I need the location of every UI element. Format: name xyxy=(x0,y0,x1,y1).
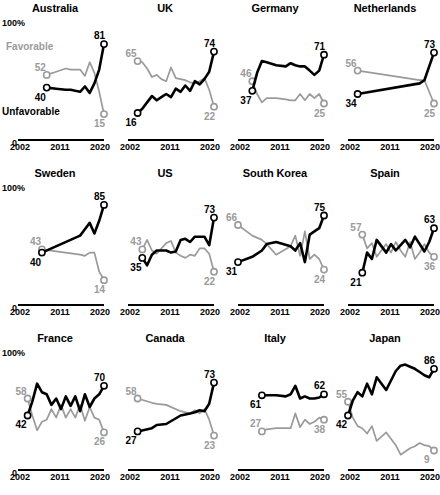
y-axis-zero-label: 0 xyxy=(12,303,17,313)
small-multiples-chart: Australia40815215200220112020100%0Favora… xyxy=(0,0,440,495)
x-tick-label: 2002 xyxy=(340,142,360,152)
x-tick-label: 2011 xyxy=(50,307,70,317)
endpoint-marker-unfavorable-end xyxy=(431,366,437,372)
endpoint-marker-unfavorable-start xyxy=(355,91,361,97)
x-axis-ticks: 200220112020 xyxy=(230,142,330,152)
panel-title: France xyxy=(0,332,110,344)
endpoint-marker-favorable-end xyxy=(101,429,107,435)
x-tick-label: 2011 xyxy=(160,307,180,317)
x-tick-label: 2020 xyxy=(200,307,220,317)
value-label-unfavorable-start: 31 xyxy=(226,266,237,277)
x-tick-label: 2020 xyxy=(200,142,220,152)
x-tick-label: 2020 xyxy=(420,142,440,152)
value-label-unfavorable-end: 63 xyxy=(424,214,435,225)
x-tick-label: 2020 xyxy=(200,472,220,482)
value-label-favorable-end: 25 xyxy=(424,108,435,119)
x-tick-label: 2002 xyxy=(120,307,140,317)
endpoint-marker-favorable-end xyxy=(211,433,217,439)
x-axis-ticks: 200220112020 xyxy=(230,307,330,317)
panel-france: France42705826200220112020100%0 xyxy=(0,330,110,495)
plot-area xyxy=(110,348,220,470)
endpoint-marker-unfavorable-start xyxy=(345,412,351,418)
value-label-unfavorable-start: 27 xyxy=(126,435,137,446)
line-unfavorable xyxy=(358,53,434,94)
panel-us: US35734322200220112020 xyxy=(110,165,220,330)
endpoint-marker-unfavorable-end xyxy=(431,50,437,56)
line-unfavorable xyxy=(47,44,104,93)
value-label-unfavorable-end: 73 xyxy=(204,369,215,380)
line-unfavorable xyxy=(138,52,214,113)
x-tick-label: 2011 xyxy=(270,142,290,152)
x-axis: 200220112020 xyxy=(330,139,440,165)
x-axis-ticks: 200220112020 xyxy=(10,472,110,482)
plot-area xyxy=(110,183,220,305)
x-axis-line xyxy=(238,304,324,306)
value-label-unfavorable-start: 42 xyxy=(336,419,347,430)
value-label-unfavorable-start: 40 xyxy=(30,257,41,268)
endpoint-marker-favorable-end xyxy=(321,267,327,273)
value-label-favorable-end: 36 xyxy=(424,261,435,272)
endpoint-marker-unfavorable-start xyxy=(259,392,265,398)
value-label-favorable-start: 66 xyxy=(226,212,237,223)
x-tick-label: 2002 xyxy=(120,142,140,152)
endpoint-marker-unfavorable-start xyxy=(249,88,255,94)
y-axis-zero-label: 0 xyxy=(12,468,17,478)
value-label-favorable-end: 15 xyxy=(94,118,105,129)
x-tick-label: 2020 xyxy=(420,307,440,317)
value-label-favorable-start: 27 xyxy=(250,418,261,429)
x-tick-label: 2002 xyxy=(340,472,360,482)
value-label-favorable-start: 58 xyxy=(126,386,137,397)
x-axis-line xyxy=(128,304,214,306)
panel-sweden: Sweden40854314200220112020100%0 xyxy=(0,165,110,330)
endpoint-marker-unfavorable-end xyxy=(101,202,107,208)
x-axis: 200220112020 xyxy=(220,139,330,165)
x-axis-ticks: 200220112020 xyxy=(340,472,440,482)
plot-area xyxy=(330,348,440,470)
endpoint-marker-unfavorable-end xyxy=(101,383,107,389)
x-tick-label: 2011 xyxy=(270,307,290,317)
legend-unfavorable: Unfavorable xyxy=(2,106,60,117)
panel-title: Netherlands xyxy=(330,2,440,14)
panel-italy: Italy61622738200220112020 xyxy=(220,330,330,495)
line-unfavorable xyxy=(348,365,434,416)
endpoint-marker-favorable-end xyxy=(321,100,327,106)
value-label-unfavorable-end: 81 xyxy=(94,30,105,41)
x-axis-line xyxy=(128,139,214,141)
x-axis-line xyxy=(18,304,104,306)
value-label-unfavorable-start: 40 xyxy=(35,92,46,103)
value-label-favorable-end: 26 xyxy=(94,436,105,447)
value-label-favorable-start: 43 xyxy=(30,236,41,247)
x-tick-label: 2002 xyxy=(230,307,250,317)
endpoint-marker-unfavorable-start xyxy=(135,110,141,116)
x-axis-ticks: 200220112020 xyxy=(120,307,220,317)
endpoint-marker-unfavorable-start xyxy=(25,412,31,418)
value-label-favorable-start: 58 xyxy=(16,386,27,397)
y-axis-max-label: 100% xyxy=(2,183,25,193)
endpoint-marker-unfavorable-end xyxy=(101,41,107,47)
x-tick-label: 2002 xyxy=(230,142,250,152)
x-axis-ticks: 200220112020 xyxy=(10,307,110,317)
x-tick-label: 2011 xyxy=(380,142,400,152)
panel-germany: Germany37714625200220112020 xyxy=(220,0,330,165)
value-label-unfavorable-end: 71 xyxy=(314,41,325,52)
endpoint-marker-favorable-end xyxy=(211,104,217,110)
plot-area xyxy=(220,18,330,140)
panel-japan: Japan4286559200220112020 xyxy=(330,330,440,495)
panel-row-1: Australia40815215200220112020100%0Favora… xyxy=(0,0,440,165)
value-label-unfavorable-end: 73 xyxy=(424,39,435,50)
value-label-favorable-end: 25 xyxy=(314,108,325,119)
panel-south-korea: South Korea31756624200220112020 xyxy=(220,165,330,330)
value-label-unfavorable-start: 34 xyxy=(346,98,357,109)
value-label-favorable-start: 65 xyxy=(126,48,137,59)
value-label-favorable-start: 56 xyxy=(346,58,357,69)
x-axis: 200220112020 xyxy=(330,469,440,495)
value-label-unfavorable-start: 35 xyxy=(130,262,141,273)
line-unfavorable xyxy=(28,384,104,416)
value-label-favorable-end: 23 xyxy=(204,440,215,451)
x-axis: 200220112020 xyxy=(110,469,220,495)
endpoint-marker-unfavorable-end xyxy=(211,49,217,55)
panel-title: Japan xyxy=(330,332,440,344)
endpoint-marker-unfavorable-start xyxy=(39,250,45,256)
panel-netherlands: Netherlands34735625200220112020 xyxy=(330,0,440,165)
y-axis-zero-label: 0 xyxy=(12,138,17,148)
